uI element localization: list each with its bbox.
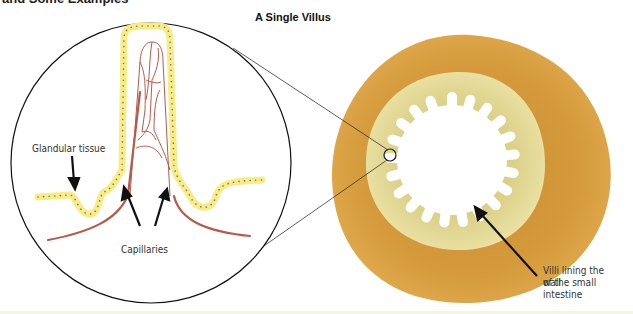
label-capillaries: Capillaries — [121, 244, 168, 256]
villus-diagram — [0, 0, 633, 314]
label-villi-line3: intestine — [543, 289, 582, 301]
magnified-view-circle — [11, 23, 291, 303]
label-glandular-tissue: Glandular tissue — [32, 143, 105, 155]
label-villi-line2: of the small — [543, 277, 596, 289]
